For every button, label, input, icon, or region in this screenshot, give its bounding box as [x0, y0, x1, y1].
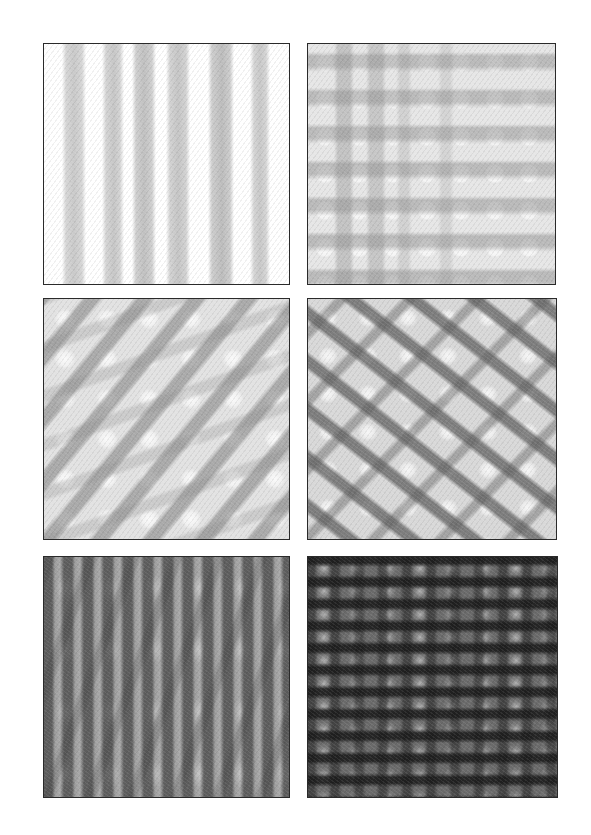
grain-overlay [44, 299, 289, 539]
grain-overlay [44, 557, 289, 797]
texture-panel-6-dense-grid [307, 556, 558, 798]
texture-panel-5-dense-vertical [43, 556, 290, 798]
grain-overlay [44, 44, 289, 284]
texture-panel-4-crosshatch [307, 298, 557, 540]
texture-panel-2-horizontal-grid [307, 43, 556, 285]
texture-panel-1-sparse-vertical [43, 43, 290, 285]
grain-overlay [308, 44, 555, 284]
grain-overlay [308, 557, 557, 797]
texture-panel-3-diagonal [43, 298, 290, 540]
grain-overlay [308, 299, 556, 539]
